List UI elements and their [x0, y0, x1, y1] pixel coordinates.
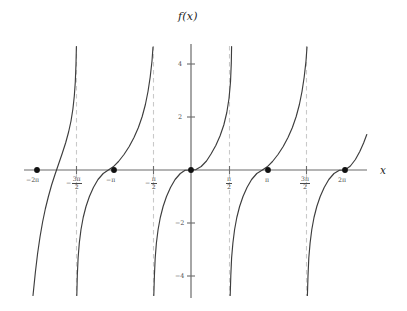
x-tick-label-neg-3pi-over-2: − 3π 2	[66, 176, 82, 190]
zero-point-pi	[265, 167, 271, 173]
fraction-denominator: 2	[300, 184, 310, 191]
minus-sign: −	[66, 180, 71, 186]
x-tick-label-neg-2pi: −2π	[26, 177, 39, 183]
fraction-denominator: 2	[72, 184, 82, 191]
x-tick-label-neg-pi-over-2: − π 2	[145, 176, 157, 190]
fraction-denominator: 2	[226, 184, 232, 191]
tangent-function-figure: f(x) x −2π − 3π 2 −π − π 2 π 2 π	[0, 0, 407, 311]
y-tick-label-neg-4: −4	[175, 273, 184, 279]
y-tick-label-4: 4	[178, 61, 182, 67]
x-tick-label-pi: π	[265, 177, 269, 183]
zero-point-neg-pi	[111, 167, 117, 173]
y-tick-label-2: 2	[178, 114, 182, 120]
x-tick-label-2pi: 2π	[338, 177, 346, 183]
y-tick-label-neg-2: −2	[175, 220, 184, 226]
zero-point-neg-2pi	[34, 167, 40, 173]
tangent-curve	[33, 47, 367, 296]
minus-sign: −	[145, 180, 150, 186]
zero-point-2pi	[342, 167, 348, 173]
x-tick-label-neg-pi: −π	[106, 177, 115, 183]
tan-branch-5	[307, 135, 366, 296]
fraction-denominator: 2	[151, 184, 157, 191]
plot-canvas	[0, 0, 407, 311]
chart-title: f(x)	[178, 11, 198, 22]
x-tick-label-3pi-over-2: 3π 2	[300, 176, 310, 190]
x-axis-label: x	[380, 165, 386, 176]
zero-point-origin	[188, 167, 194, 173]
x-tick-label-pi-over-2: π 2	[226, 176, 232, 190]
